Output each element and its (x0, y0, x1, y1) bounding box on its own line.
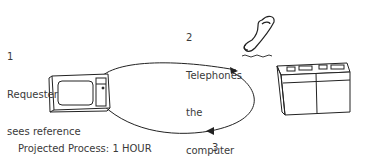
step-1-number: 1 (7, 51, 81, 64)
step-1-label: 1 Requester sees reference on TV screen (7, 26, 81, 162)
step-3-label: 3 Computer displays article on screen (212, 117, 339, 162)
projected-process-footer: Projected Process: 1 HOUR (18, 143, 152, 156)
step-3-number: 3 (212, 142, 339, 155)
step-2-number: 2 (186, 32, 242, 45)
computer-icon (277, 63, 350, 115)
telephone-icon (242, 16, 274, 57)
